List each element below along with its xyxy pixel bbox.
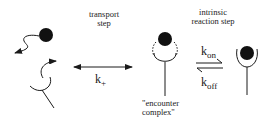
encounter-complex [153, 32, 178, 96]
diffusion-path-arrow [15, 35, 39, 53]
receptor-cup [154, 53, 176, 61]
rate-subscript: off [207, 81, 217, 91]
binding-kinetics-diagram: transport step intrinsic reaction step "… [0, 0, 278, 126]
rate-subscript: + [101, 78, 106, 88]
bound-complex [237, 46, 258, 95]
rate-constant-k-off: koff [201, 76, 217, 92]
label-line: complex" [142, 108, 192, 117]
rotation-arrow [41, 61, 56, 78]
receptor-stalk [42, 90, 54, 108]
rate-constant-k-plus: k+ [95, 73, 106, 89]
rate-subscript: on [207, 50, 216, 60]
reaction-step-label: intrinsic reaction step [182, 8, 244, 26]
free-ligand [15, 28, 53, 53]
label-line: step [78, 19, 130, 28]
label-line: reaction step [182, 17, 244, 26]
receptor-cup [30, 77, 51, 91]
free-receptor [30, 61, 56, 108]
rate-constant-k-on: kon [201, 45, 216, 61]
encounter-complex-label: "encounter complex" [142, 99, 192, 117]
transport-step-label: transport step [78, 10, 130, 28]
